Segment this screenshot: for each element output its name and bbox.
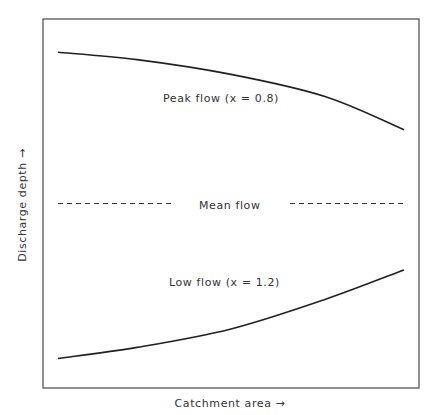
peak-flow-label: Peak flow (x = 0.8) — [163, 92, 279, 105]
peak-flow-curve — [58, 52, 404, 129]
y-axis-label: Discharge depth → — [16, 148, 29, 262]
chart-canvas: Peak flow (x = 0.8) Mean flow Low flow (… — [0, 0, 442, 415]
low-flow-label: Low flow (x = 1.2) — [169, 276, 280, 289]
x-axis-label: Catchment area → — [175, 397, 286, 410]
mean-flow-label: Mean flow — [199, 199, 261, 212]
annotations-group: Peak flow (x = 0.8) Mean flow Low flow (… — [163, 92, 280, 289]
